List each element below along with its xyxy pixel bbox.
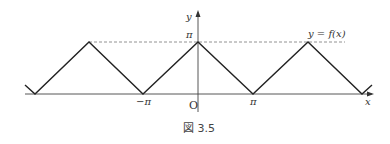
function-label: y = f(x)	[307, 28, 346, 39]
y-axis-label: y	[185, 11, 192, 22]
origin-label: O	[189, 99, 198, 112]
y-tick-pi-label: π	[185, 29, 193, 40]
function-graph	[25, 42, 372, 94]
x-tick-neg-pi-label: −π	[136, 96, 151, 107]
x-axis-label: x	[365, 96, 371, 107]
triangle-wave-diagram: y π O −π π x y = f(x) 図 3.5	[0, 0, 390, 144]
y-axis-arrow-icon	[196, 10, 201, 17]
figure-caption: 図 3.5	[183, 122, 215, 135]
x-tick-pi-label: π	[249, 96, 257, 107]
